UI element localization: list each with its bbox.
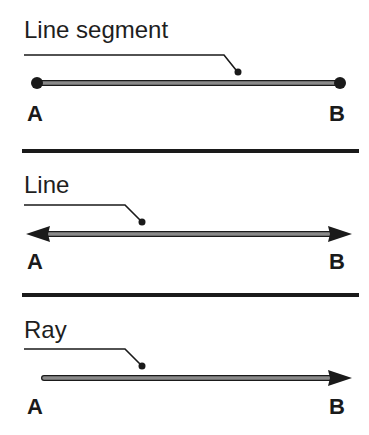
arrow-right-icon [328, 370, 352, 386]
point-a-label: A [27, 396, 43, 418]
section-ray: Ray A B [0, 0, 369, 435]
point-b-label: B [329, 396, 345, 418]
leader-line [24, 349, 140, 364]
ray-figure [0, 0, 369, 435]
leader-dot [139, 363, 146, 370]
